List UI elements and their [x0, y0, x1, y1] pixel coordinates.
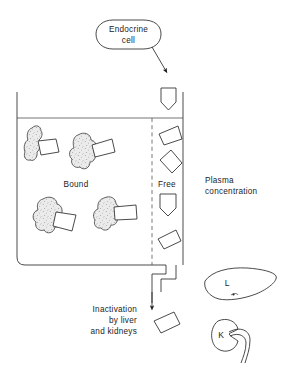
hormone-shape: [161, 88, 176, 110]
kidney-initial: K: [218, 330, 224, 340]
kidney-ureter: [229, 329, 250, 363]
liver-notch-dot: [232, 293, 234, 295]
hormone-shape: [92, 139, 115, 157]
hormone-shape: [160, 150, 182, 173]
endocrine-cell-label-line2: cell: [122, 36, 135, 45]
bound-complex: [33, 197, 76, 233]
liver-initial: L: [225, 278, 230, 288]
inactivation-line2: by liver: [109, 316, 137, 325]
outflow-channel: [161, 265, 176, 292]
bound-complex: [24, 126, 59, 161]
endocrine-cell-label-line1: Endocrine: [109, 25, 148, 34]
liver-shape: [205, 268, 277, 300]
bound-complex: [70, 133, 115, 169]
hormone-shape: [154, 312, 180, 333]
outflow-channel: [152, 265, 166, 303]
inactivation-line1: Inactivation: [93, 305, 138, 314]
hormone-shape: [158, 230, 181, 249]
free-label: Free: [158, 180, 176, 189]
bound-complexes-group: Bound: [24, 126, 137, 233]
hormone-shape: [160, 194, 176, 216]
hormone-shape: [53, 212, 76, 231]
hormone-shape: [114, 205, 137, 220]
free-hormones-group: Free: [158, 126, 182, 249]
liver-group: L: [205, 268, 277, 300]
kidney-group: K: [212, 319, 250, 363]
kidney-shape: [212, 319, 238, 351]
endocrine-cell-group: Endocrine cell: [96, 20, 166, 71]
plasma-protein-blob: [70, 133, 97, 169]
plasma-concentration-line1: Plasma: [205, 176, 234, 185]
plasma-concentration-line2: concentration: [205, 187, 258, 196]
hormone-shape: [159, 126, 182, 145]
secretion-arrow: [152, 47, 166, 71]
hormone-entering-group: [161, 88, 176, 110]
bound-complex: [94, 197, 137, 230]
inactivation-line3: and kidneys: [91, 327, 137, 336]
endocrine-plasma-binding-diagram: Endocrine cell: [0, 0, 288, 367]
plasma-concentration-label: Plasma concentration: [205, 176, 258, 196]
clearance-group: Inactivation by liver and kidneys: [91, 265, 180, 336]
hormone-shape: [38, 139, 59, 155]
bound-label: Bound: [64, 180, 89, 189]
